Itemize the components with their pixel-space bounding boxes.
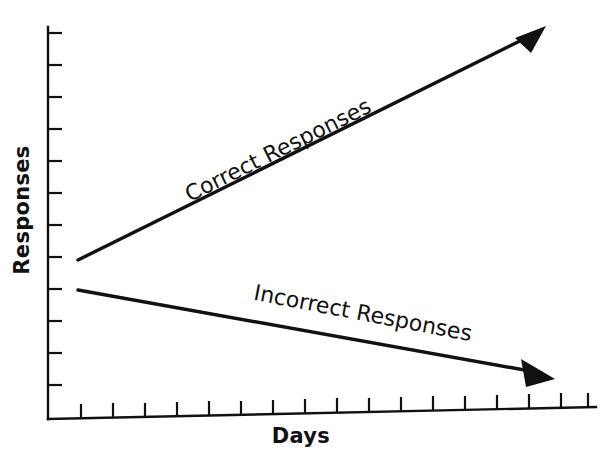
arrowhead-correct-responses (515, 26, 546, 53)
arrowhead-incorrect-responses (521, 359, 555, 387)
x-axis-line (48, 407, 596, 419)
y-axis-ticks (48, 33, 62, 385)
x-axis-ticks (81, 393, 588, 418)
y-axis-title: Responses (10, 145, 34, 274)
x-axis-title: Days (0, 424, 602, 448)
chart-canvas: Correct Responses Incorrect Responses Da… (0, 0, 602, 454)
line-chart-graphic (0, 0, 602, 454)
